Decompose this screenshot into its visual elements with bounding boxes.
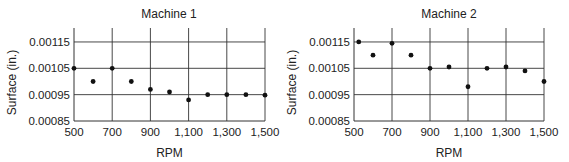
data-point [72,66,77,71]
plot-svg: Machine 20.000850.000950.001050.00115500… [285,0,569,162]
data-point [167,90,172,95]
data-point [129,79,134,84]
data-point [371,53,376,58]
data-point [356,40,361,45]
y-tick-label: 0.00095 [308,89,350,101]
data-point [91,79,96,84]
x-axis-label: RPM [156,146,183,160]
y-tick-label: 0.00115 [309,36,350,48]
data-point [186,98,191,103]
y-axis-label: Surface (in.) [5,50,19,115]
data-point [224,92,229,97]
x-tick-label: 700 [103,126,122,138]
data-point [542,79,547,84]
data-point [263,93,268,98]
chart-title: Machine 1 [141,7,197,21]
data-point [523,69,528,74]
y-tick-label: 0.00095 [28,89,70,101]
data-point [428,66,433,71]
x-tick-label: 900 [420,126,439,138]
data-point [447,65,452,70]
y-tick-label: 0.00115 [29,36,70,48]
data-point [409,53,414,58]
x-tick-label: 1,500 [251,126,280,138]
machine-2-chart: Machine 20.000850.000950.001050.00115500… [285,0,569,162]
data-point [205,92,210,97]
plot-svg: Machine 10.000850.000950.001050.00115500… [0,0,285,162]
data-point [504,65,509,70]
y-tick-label: 0.00105 [308,62,350,74]
x-tick-label: 1,300 [212,126,241,138]
data-point [244,92,249,97]
x-axis-label: RPM [436,146,463,160]
y-axis-label: Surface (in.) [285,50,299,115]
x-tick-label: 900 [141,126,160,138]
x-tick-label: 1,100 [454,126,483,138]
x-tick-label: 1,500 [530,126,559,138]
x-tick-label: 1,300 [492,126,521,138]
data-point [485,66,490,71]
chart-title: Machine 2 [421,7,477,21]
y-tick-label: 0.00105 [28,62,70,74]
x-tick-label: 500 [64,126,83,138]
machine-1-chart: Machine 10.000850.000950.001050.00115500… [0,0,285,162]
x-tick-label: 500 [344,126,363,138]
data-point [466,84,471,89]
data-point [148,87,153,92]
x-tick-label: 1,100 [174,126,203,138]
data-point [390,41,395,46]
x-tick-label: 700 [382,126,401,138]
data-point [110,66,115,71]
